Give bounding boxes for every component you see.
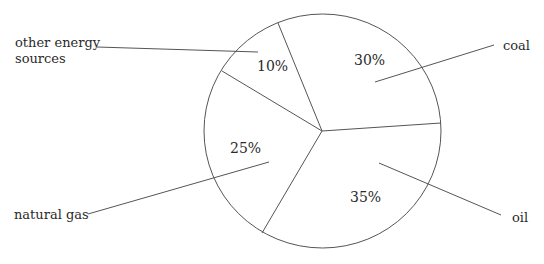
value-label-other: 10% (257, 58, 288, 74)
leader-line-oil (379, 163, 501, 215)
pie-chart: 30% 35% 25% 10% coal oil natural gas oth… (0, 0, 544, 264)
value-label-gas: 25% (230, 140, 261, 156)
value-label-coal: 30% (354, 52, 385, 68)
leader-line-coal (375, 45, 494, 82)
category-label-gas: natural gas (14, 207, 89, 222)
leader-lines (88, 45, 501, 215)
slice-dividers (222, 23, 441, 233)
category-label-other-line2: sources (15, 51, 66, 66)
divider-other-coal (278, 23, 322, 131)
divider-oil-gas (262, 131, 322, 233)
divider-gas-other (222, 71, 322, 131)
category-label-coal: coal (503, 38, 530, 53)
leader-line-other (97, 47, 258, 52)
category-label-oil: oil (512, 210, 528, 225)
leader-line-gas (88, 162, 269, 214)
category-label-other-line1: other energy (15, 35, 101, 50)
divider-coal-oil (322, 123, 441, 131)
value-label-oil: 35% (350, 189, 381, 205)
